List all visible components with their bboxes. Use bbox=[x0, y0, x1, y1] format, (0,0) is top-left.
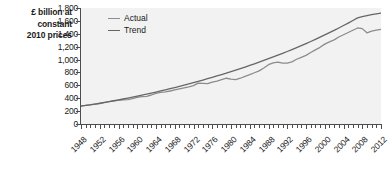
legend-item-trend: Trend bbox=[108, 25, 148, 36]
legend-label-trend: Trend bbox=[124, 25, 146, 36]
chart-legend: Actual Trend bbox=[108, 13, 148, 37]
legend-swatch-actual-icon bbox=[108, 18, 120, 19]
x-axis-tick-labels: 1948195219561960196419681972197619801984… bbox=[0, 0, 390, 175]
legend-swatch-trend-icon bbox=[108, 30, 120, 31]
legend-label-actual: Actual bbox=[124, 13, 148, 24]
legend-item-actual: Actual bbox=[108, 13, 148, 24]
chart-container: £ billion at constant 2010 prices 1,8001… bbox=[0, 0, 390, 175]
